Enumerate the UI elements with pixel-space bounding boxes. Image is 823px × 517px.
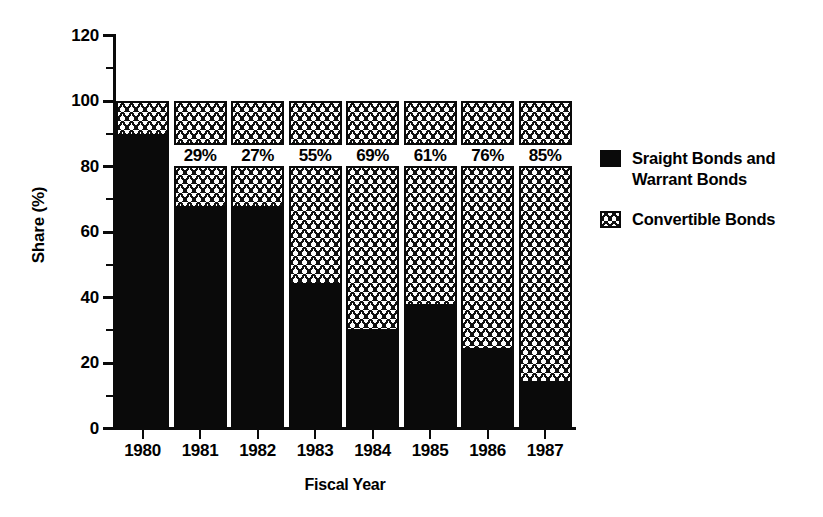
y-tick-label: 40 — [53, 289, 99, 306]
y-tick-label-wrap: 80 — [44, 167, 99, 168]
x-tick — [544, 430, 546, 439]
bar-segment-straight[interactable] — [231, 206, 284, 429]
y-tick-major — [103, 296, 113, 299]
bar-segment-straight[interactable] — [174, 206, 227, 429]
x-tick-label: 1987 — [510, 441, 580, 461]
y-tick-label-wrap: 20 — [44, 363, 99, 364]
chart-canvas: 020406080100120 198019811982198319841985… — [0, 0, 823, 517]
bar-segment-convertible[interactable] — [404, 101, 457, 306]
bar-1980[interactable] — [116, 101, 169, 429]
bar-segment-straight[interactable] — [404, 304, 457, 428]
black-square-swatch — [600, 150, 621, 167]
y-tick-label: 0 — [53, 420, 99, 437]
x-tick — [257, 430, 259, 439]
x-tick — [142, 430, 144, 439]
bar-value-label: 55% — [289, 143, 342, 168]
bar-value-label: 29% — [174, 143, 227, 168]
x-tick — [314, 430, 316, 439]
y-tick-label: 20 — [53, 354, 99, 371]
y-tick-label: 80 — [53, 158, 99, 175]
bar-1983[interactable]: 55% — [289, 101, 342, 429]
y-tick-minor — [106, 133, 113, 135]
bar-value-label: 27% — [231, 143, 284, 168]
y-tick-minor — [106, 198, 113, 200]
bar-value-label: 69% — [346, 143, 399, 168]
y-tick-minor — [106, 395, 113, 397]
bar-segment-convertible[interactable] — [116, 101, 169, 136]
bar-1987[interactable]: 85% — [519, 101, 572, 429]
bar-1986[interactable]: 76% — [461, 101, 514, 429]
bar-segment-convertible[interactable] — [289, 101, 342, 285]
y-tick-label: 120 — [53, 27, 99, 44]
x-tick — [429, 430, 431, 439]
legend-item-1[interactable]: Sraight Bonds and Warrant Bonds — [600, 148, 775, 190]
bar-1985[interactable]: 61% — [404, 101, 457, 429]
y-tick-label: 60 — [53, 223, 99, 240]
y-tick-label-wrap: 0 — [44, 429, 99, 430]
hatched-square-swatch — [600, 211, 621, 228]
bar-segment-convertible[interactable] — [461, 101, 514, 350]
y-tick-label-wrap: 120 — [44, 36, 99, 37]
legend-item-2[interactable]: Convertible Bonds — [600, 209, 775, 230]
y-tick-major — [103, 34, 113, 37]
bar-segment-convertible[interactable] — [346, 101, 399, 331]
legend-label: Convertible Bonds — [632, 209, 775, 230]
bar-1984[interactable]: 69% — [346, 101, 399, 429]
y-tick-minor — [106, 329, 113, 331]
y-tick-minor — [106, 264, 113, 266]
x-tick — [372, 430, 374, 439]
y-tick-label: 100 — [53, 92, 99, 109]
y-tick-major — [103, 100, 113, 103]
bar-segment-straight[interactable] — [346, 329, 399, 429]
bar-1981[interactable]: 29% — [174, 101, 227, 429]
bar-segment-straight[interactable] — [519, 381, 572, 428]
bar-value-label: 61% — [404, 143, 457, 168]
y-tick-major — [103, 165, 113, 168]
bar-segment-straight[interactable] — [461, 348, 514, 428]
y-tick-label-wrap: 100 — [44, 101, 99, 102]
bar-segment-straight[interactable] — [116, 134, 169, 429]
y-tick-label-wrap: 40 — [44, 298, 99, 299]
bar-value-label: 85% — [519, 143, 572, 168]
bar-segment-straight[interactable] — [289, 283, 342, 429]
x-tick — [199, 430, 201, 439]
y-tick-minor — [106, 67, 113, 69]
legend-label: Sraight Bonds and Warrant Bonds — [632, 148, 775, 190]
y-tick-major — [103, 231, 113, 234]
bar-1982[interactable]: 27% — [231, 101, 284, 429]
bar-value-label: 76% — [461, 143, 514, 168]
y-tick-major — [103, 427, 113, 430]
y-axis-title: Share (%) — [29, 165, 49, 285]
x-tick — [487, 430, 489, 439]
y-tick-major — [103, 362, 113, 365]
x-axis-title: Fiscal Year — [215, 476, 475, 494]
y-tick-label-wrap: 60 — [44, 232, 99, 233]
